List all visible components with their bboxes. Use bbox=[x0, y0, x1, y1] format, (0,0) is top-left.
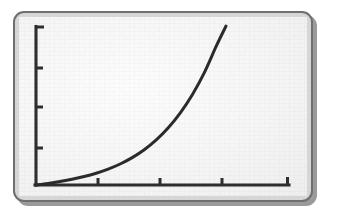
chart-panel bbox=[13, 11, 313, 202]
chart-xlabel bbox=[0, 0, 1, 1]
chart-ylabel bbox=[0, 0, 1, 1]
figure-root bbox=[0, 0, 341, 222]
paper-grain-texture bbox=[19, 17, 307, 196]
chart-title bbox=[0, 0, 1, 1]
plot-surface bbox=[19, 17, 307, 196]
